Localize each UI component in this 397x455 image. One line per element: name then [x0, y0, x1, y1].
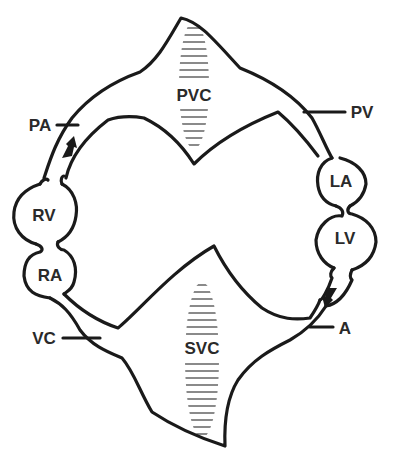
pv-label: PV: [351, 104, 374, 121]
vc-label: VC: [32, 330, 56, 347]
pvc-label: PVC: [177, 87, 212, 104]
la-label: LA: [330, 173, 353, 190]
svc-hatch: [180, 285, 225, 434]
pa-label: PA: [29, 117, 51, 134]
svc-label: SVC: [185, 340, 220, 357]
lv-label: LV: [335, 230, 355, 247]
systemic-inner-wall: [64, 246, 320, 328]
rv-label: RV: [32, 207, 55, 224]
circulation-diagram: [0, 0, 397, 455]
a-label: A: [339, 320, 351, 337]
ra-label: RA: [38, 267, 63, 284]
